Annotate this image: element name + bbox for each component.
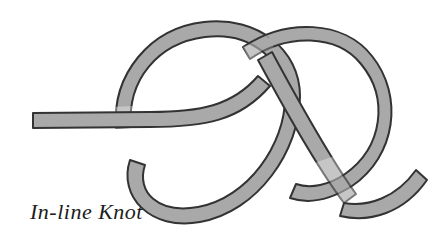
knot-figure: In-line Knot (0, 0, 437, 241)
horizontal-band (33, 76, 270, 128)
descending-diagonal-strand (258, 52, 356, 203)
figure-caption: In-line Knot (30, 199, 143, 225)
rope-group (33, 21, 427, 223)
horizontal-band-strand (33, 76, 270, 128)
descending-diagonal-band (258, 52, 356, 203)
